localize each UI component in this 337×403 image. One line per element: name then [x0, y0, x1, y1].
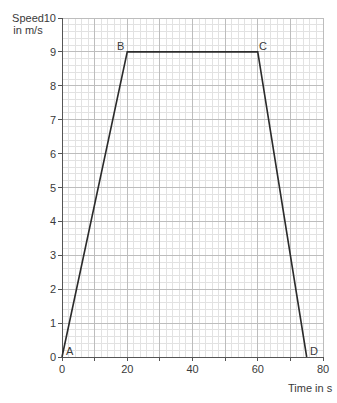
- x-axis-title: Time in s: [288, 382, 332, 394]
- point-label-b: B: [117, 40, 124, 52]
- y-tick-label: 6: [30, 148, 56, 160]
- x-tick-label: 60: [243, 363, 273, 375]
- y-tick-label: 2: [30, 283, 56, 295]
- point-label-a: A: [66, 345, 73, 357]
- y-axis-title-line2: in m/s: [6, 24, 50, 36]
- y-tick-label: 4: [30, 215, 56, 227]
- x-tick-label: 0: [47, 363, 77, 375]
- y-tick-label: 3: [30, 249, 56, 261]
- x-tick-label: 20: [112, 363, 142, 375]
- point-label-c: C: [259, 40, 267, 52]
- y-tick-label: 9: [30, 46, 56, 58]
- speed-time-chart: [0, 0, 337, 403]
- point-label-d: D: [310, 345, 318, 357]
- x-tick-label: 80: [308, 363, 337, 375]
- y-tick-label: 10: [30, 12, 56, 24]
- x-tick-label: 40: [178, 363, 208, 375]
- y-tick-label: 7: [30, 114, 56, 126]
- data-line: [62, 52, 307, 357]
- y-tick-label: 5: [30, 182, 56, 194]
- y-tick-label: 8: [30, 80, 56, 92]
- y-tick-label: 0: [30, 351, 56, 363]
- y-tick-label: 1: [30, 317, 56, 329]
